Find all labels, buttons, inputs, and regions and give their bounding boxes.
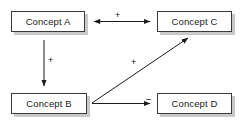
node-concept-c[interactable]: Concept C [157,11,232,32]
node-concept-c-label: Concept C [172,17,218,27]
edge-sign-b-to-c: + [131,58,136,67]
node-concept-b-label: Concept B [26,99,71,109]
node-concept-d[interactable]: Concept D [157,93,232,114]
node-concept-a[interactable]: Concept A [11,11,85,32]
node-concept-a-label: Concept A [26,17,71,27]
edge-sign-a-to-b: + [48,56,53,65]
edge-sign-b-to-d: – [146,95,151,104]
diagram-canvas: Concept A Concept C Concept B Concept D … [0,0,244,126]
node-concept-d-label: Concept D [172,99,218,109]
edge-sign-a-to-c: + [115,11,120,20]
node-concept-b[interactable]: Concept B [11,93,87,114]
